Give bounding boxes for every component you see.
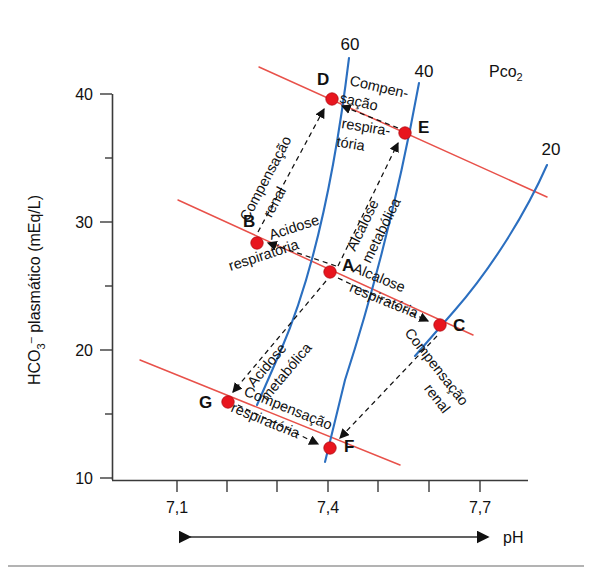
point-label-c: C: [453, 316, 465, 335]
pco2-isobars: [257, 58, 547, 462]
isobar-label-20: 20: [542, 140, 561, 159]
y-axis: 40 30 20 10 HCO3– plasmático (mEq/L): [24, 86, 113, 487]
annot-acidose-respiratoria-line2: respiratória: [227, 236, 302, 274]
x-tick-label-77: 7,7: [469, 499, 491, 516]
isobar-label-60: 60: [341, 35, 360, 54]
pco2-label-sub: 2: [517, 71, 523, 83]
point-a[interactable]: [324, 266, 336, 278]
pco2-label-main: Pco: [489, 63, 517, 80]
point-e[interactable]: [399, 127, 411, 139]
point-label-f: F: [344, 437, 354, 456]
annot-compensacao-respiratoria-sup-line4: tória: [336, 134, 367, 154]
y-tick-label-40: 40: [75, 86, 93, 103]
x-axis-title: pH: [503, 529, 523, 546]
x-tick-label-71: 7,1: [166, 499, 188, 516]
point-label-d: D: [317, 70, 329, 89]
y-axis-title-main: HCO: [26, 349, 43, 385]
point-label-e: E: [418, 118, 429, 137]
y-tick-label-30: 30: [75, 214, 93, 231]
pco2-group-label: Pco2: [489, 63, 523, 83]
y-axis-title: HCO3– plasmático (mEq/L): [24, 195, 47, 385]
point-c[interactable]: [434, 319, 446, 331]
y-axis-title-sub: 3: [35, 343, 47, 349]
point-label-g: G: [199, 393, 212, 412]
x-axis: 7,1 7,4 7,7 pH: [112, 480, 528, 546]
point-f[interactable]: [324, 442, 336, 454]
davenport-diagram: 40 30 20 10 HCO3– plasmático (mEq/L) 7,1…: [0, 0, 592, 574]
isobar-label-40: 40: [415, 62, 434, 81]
y-axis-title-rest: plasmático (mEq/L): [26, 195, 43, 337]
y-tick-label-20: 20: [75, 342, 93, 359]
x-tick-label-74: 7,4: [317, 499, 339, 516]
y-tick-label-10: 10: [75, 470, 93, 487]
point-d[interactable]: [326, 93, 338, 105]
